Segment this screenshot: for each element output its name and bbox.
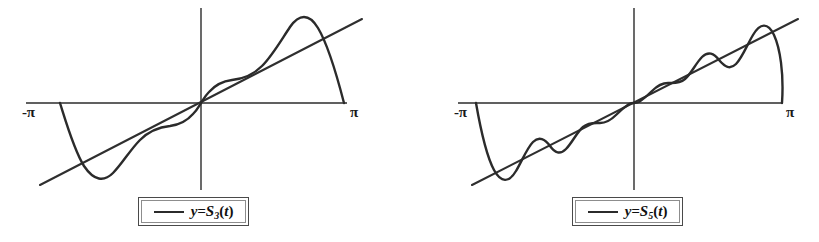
legend-func-right: S <box>640 203 648 219</box>
x-axis-max-tick-label-left: π <box>350 104 358 121</box>
curve-s3-left <box>60 17 344 179</box>
legend-paren-close-right: ) <box>662 203 667 219</box>
plot-axes-and-curves-left <box>0 0 410 195</box>
legend-right: y=S5(t) <box>572 197 683 226</box>
legend-label-right: y=S5(t) <box>625 203 668 221</box>
legend-line-swatch-right <box>588 211 618 213</box>
legend-paren-close-left: ) <box>228 203 233 219</box>
figure-container: -π π y=S3(t) -π π y=S5(t) <box>0 0 819 242</box>
x-axis-min-tick-label-left: -π <box>22 104 35 121</box>
legend-line-swatch-left <box>154 211 184 213</box>
legend-left: y=S3(t) <box>138 197 249 226</box>
x-axis-min-tick-label-right: -π <box>454 104 467 121</box>
legend-label-left: y=S3(t) <box>191 203 234 221</box>
legend-equals-right: = <box>631 203 640 219</box>
plot-panel-left: -π π y=S3(t) <box>0 0 410 242</box>
plot-axes-and-curves-right <box>410 0 819 195</box>
legend-equals-left: = <box>197 203 206 219</box>
x-axis-max-tick-label-right: π <box>786 104 794 121</box>
plot-panel-right: -π π y=S5(t) <box>410 0 819 242</box>
legend-func-left: S <box>206 203 214 219</box>
